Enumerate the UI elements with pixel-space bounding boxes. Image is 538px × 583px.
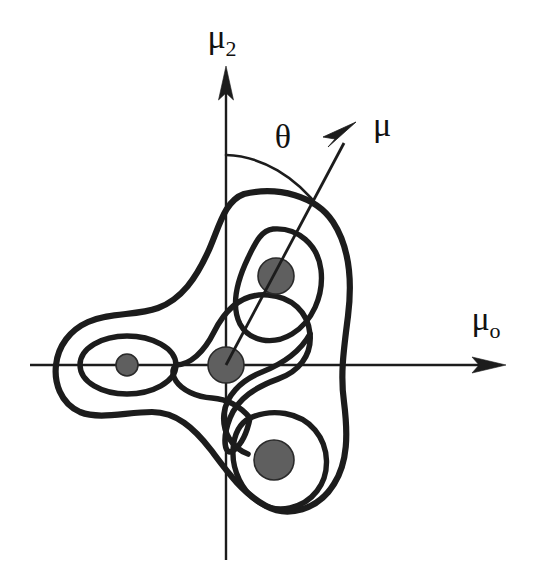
vertical-axis-label: μ2	[207, 18, 236, 61]
figure-root: μ2 μo θ μ	[0, 0, 538, 583]
mu-vector-label: μ	[373, 106, 391, 143]
left-mode-blob	[116, 354, 138, 376]
horizontal-axis-label-subscript: o	[490, 318, 501, 343]
axes-group	[30, 66, 506, 560]
horizontal-axis-label: μo	[471, 300, 500, 343]
horizontal-axis-label-base: μ	[471, 300, 489, 337]
diagram-canvas: μ2 μo θ μ	[0, 0, 538, 583]
mu-vector-arrowhead-icon	[323, 122, 356, 147]
vertical-axis-label-base: μ	[207, 18, 225, 55]
upper-right-mode-blob	[258, 258, 294, 294]
lower-right-mode-blob	[254, 440, 294, 480]
theta-label: θ	[275, 118, 291, 155]
contour-group	[56, 191, 350, 511]
vertical-axis-label-subscript: 2	[226, 36, 237, 61]
